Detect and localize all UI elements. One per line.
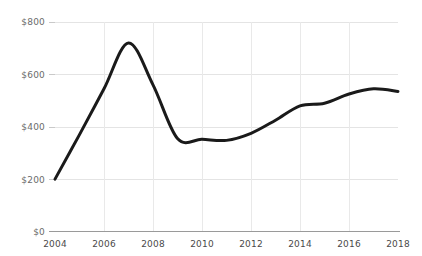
x-axis-tick-labels: 2004 2006 2008 2010 2012 2014 2016 2018 [43, 239, 410, 249]
xtick-label-2018: 2018 [386, 239, 410, 249]
ytick-label-800: $800 [21, 17, 45, 27]
horizontal-gridlines [55, 22, 398, 180]
chart-canvas: $800 $600 $400 $200 $0 2004 2006 2008 20… [0, 0, 422, 256]
ytick-label-400: $400 [21, 122, 45, 132]
ytick-label-0: $0 [33, 227, 45, 237]
line-chart: $800 $600 $400 $200 $0 2004 2006 2008 20… [0, 0, 422, 256]
xtick-label-2004: 2004 [43, 239, 67, 249]
xtick-label-2014: 2014 [288, 239, 312, 249]
y-axis-tick-labels: $800 $600 $400 $200 $0 [21, 17, 45, 237]
xtick-label-2016: 2016 [337, 239, 361, 249]
y-tick-stubs [49, 22, 55, 180]
ytick-label-200: $200 [21, 175, 45, 185]
xtick-label-2006: 2006 [92, 239, 116, 249]
xtick-label-2012: 2012 [239, 239, 263, 249]
series-line-value [55, 43, 398, 179]
xtick-label-2010: 2010 [190, 239, 214, 249]
xtick-label-2008: 2008 [141, 239, 165, 249]
ytick-label-600: $600 [21, 70, 45, 80]
